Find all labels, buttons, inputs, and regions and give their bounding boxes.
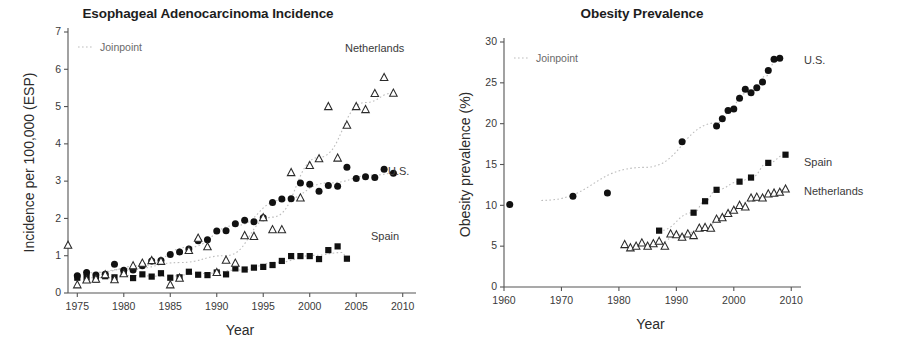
data-point-circle — [719, 115, 726, 122]
data-point-circle — [753, 84, 760, 91]
chart-left-canvas: 0123456719751980198519901995200020052010… — [0, 0, 452, 350]
data-point-triangle — [222, 256, 230, 263]
data-point-square — [251, 265, 257, 271]
data-point-circle — [506, 201, 513, 208]
data-point-square — [765, 160, 771, 166]
data-point-square — [736, 179, 742, 185]
y-tick-label: 25 — [485, 76, 497, 88]
data-point-triangle — [297, 194, 305, 201]
data-point-square — [325, 247, 331, 253]
data-point-circle — [241, 217, 248, 224]
y-tick-label: 3 — [55, 174, 61, 186]
joinpoint-curves — [87, 93, 394, 278]
data-point-triangle — [655, 237, 663, 244]
data-point-square — [702, 198, 708, 204]
y-tick-label: 5 — [55, 100, 61, 112]
data-point-circle — [167, 251, 174, 258]
x-tick-label: 1975 — [66, 300, 90, 312]
data-point-triangle — [673, 231, 681, 238]
data-point-square — [260, 264, 266, 270]
data-point-square — [656, 228, 662, 234]
x-tick-label: 1980 — [607, 294, 631, 306]
data-point-circle — [269, 199, 276, 206]
data-point-circle — [232, 220, 239, 227]
joinpoint-legend: Joinpoint — [78, 41, 142, 53]
data-point-circle — [776, 55, 783, 62]
data-point-triangle — [139, 259, 147, 266]
y-tick-label: 20 — [485, 117, 497, 129]
x-axis-title: Year — [226, 322, 255, 338]
data-point-circle — [748, 89, 755, 96]
x-axis-ticks: 19751980198519901995200020052010 — [66, 293, 415, 312]
data-point-square — [242, 266, 248, 272]
data-point-circle — [765, 67, 772, 74]
data-point-triangle — [64, 241, 72, 248]
data-point-triangle — [390, 89, 398, 96]
panel-obesity-prevalence: Obesity Prevalence 051015202530196019701… — [452, 0, 905, 350]
data-point-square — [288, 253, 294, 259]
x-tick-label: 1995 — [252, 300, 276, 312]
data-point-triangle — [204, 243, 212, 250]
data-point-triangle — [782, 185, 790, 192]
data-point-circle — [343, 164, 350, 171]
data-point-square — [690, 210, 696, 216]
data-point-circle — [759, 79, 766, 86]
data-point-triangle — [325, 102, 333, 109]
data-point-circle — [176, 248, 183, 255]
data-point-circle — [713, 123, 720, 130]
y-axis-title: Incidence per 100,000 (ESP) — [21, 73, 37, 253]
y-tick-label: 4 — [55, 137, 61, 149]
y-axis-title: Obesity prevalence (%) — [457, 92, 473, 238]
chart-right-canvas: 051015202530196019701980199020002010Year… — [452, 0, 905, 350]
x-tick-label: 1980 — [112, 300, 136, 312]
data-point-triangle — [736, 201, 744, 208]
data-point-triangle — [194, 234, 202, 241]
y-tick-label: 2 — [55, 212, 61, 224]
x-tick-label: 2000 — [298, 300, 322, 312]
data-point-triangle — [638, 239, 646, 246]
axes-group — [504, 38, 801, 287]
data-point-circle — [334, 183, 341, 190]
data-point-square — [748, 174, 754, 180]
series-label-us: U.S. — [388, 165, 409, 177]
data-point-square — [130, 275, 136, 281]
series-netherlands — [621, 185, 789, 251]
data-point-circle — [250, 218, 257, 225]
data-point-triangle — [371, 89, 379, 96]
data-point-circle — [297, 180, 304, 187]
data-point-triangle — [74, 281, 82, 288]
x-tick-label: 1985 — [159, 300, 183, 312]
data-point-circle — [371, 174, 378, 181]
data-point-square — [782, 152, 788, 158]
joinpoint-curve — [541, 58, 779, 200]
data-point-circle — [111, 261, 118, 268]
data-point-circle — [316, 188, 323, 195]
data-point-square — [204, 272, 210, 278]
series-label-us: U.S. — [804, 54, 825, 66]
data-point-square — [307, 253, 313, 259]
y-tick-label: 1 — [55, 249, 61, 261]
series-us — [506, 55, 783, 208]
series-label-spain: Spain — [804, 156, 832, 168]
x-tick-label: 2010 — [780, 294, 804, 306]
y-tick-label: 10 — [485, 199, 497, 211]
data-point-circle — [213, 228, 220, 235]
data-point-square — [335, 243, 341, 249]
data-point-square — [158, 270, 164, 276]
x-tick-label: 2005 — [345, 300, 369, 312]
data-point-square — [269, 262, 275, 268]
data-point-circle — [278, 196, 285, 203]
data-point-triangle — [241, 231, 249, 238]
data-point-circle — [353, 175, 360, 182]
data-point-circle — [362, 173, 369, 180]
x-tick-label: 1960 — [492, 294, 516, 306]
data-point-circle — [569, 193, 576, 200]
joinpoint-legend-label: Joinpoint — [100, 41, 142, 53]
data-point-triangle — [287, 168, 295, 175]
data-point-circle — [679, 138, 686, 145]
series-label-spain: Spain — [371, 230, 399, 242]
data-point-square — [149, 273, 155, 279]
y-tick-label: 15 — [485, 158, 497, 170]
x-tick-label: 1990 — [665, 294, 689, 306]
y-tick-label: 5 — [491, 239, 497, 251]
